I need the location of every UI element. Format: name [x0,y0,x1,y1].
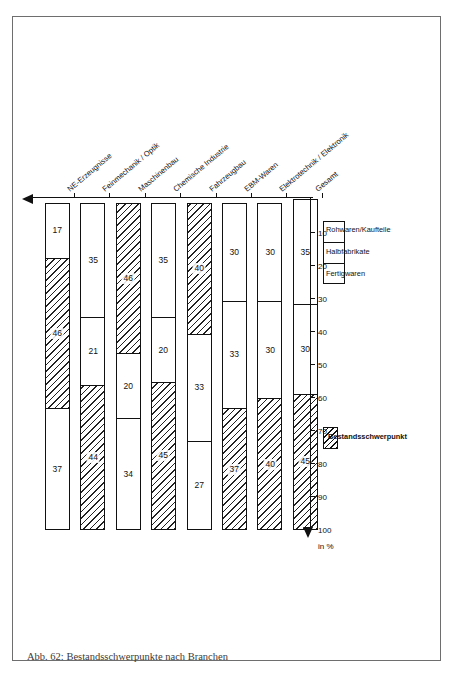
axis-tick [310,430,315,431]
bar-segment-value: 35 [299,247,310,256]
bar-segment-value: 20 [122,381,133,390]
axis-tick [310,496,315,497]
bar-segment-value: 17 [51,226,62,235]
bar-segment-value: 34 [122,469,133,478]
axis-tick [310,397,315,398]
bar-segment-value: 46 [121,273,134,284]
axis-tick-label: 60 [318,394,327,403]
axis-tick-label: 20 [318,262,327,271]
axis-tick [310,529,315,530]
bar-segment: 35 [80,202,105,318]
bar-segment: 45 [292,393,317,530]
category-tick [286,193,287,198]
bar-row: 342046 [115,200,140,530]
bar-segment: 30 [222,202,247,301]
bar-segment: 17 [45,202,70,258]
axis-tick [310,364,315,365]
bar-segment: 30 [257,202,282,301]
axis-tick-label: 100 [318,526,331,535]
axis-tick-label: 10 [318,229,327,238]
bar-segment-value: 40 [192,263,205,274]
bar-segment: 46 [45,257,70,409]
category-tick [144,193,145,198]
axis-tick-label: 30 [318,295,327,304]
axis-tick [310,463,315,464]
axis-tick-label: 40 [318,328,327,337]
bar-segment-value: 21 [87,347,98,356]
bar-segment-value: 45 [156,450,169,461]
bar-segment-value: 35 [157,256,168,265]
bar-segment: 30 [257,300,282,399]
bar-segment-value: 30 [299,344,310,353]
chart-area: Fertigwaren Halbfabrikate Rohwaren/Kauft… [27,104,427,574]
bar-segment-value: 30 [264,345,275,354]
bar-segment-value: 33 [228,350,239,359]
legend-label-rohwaren-kaufteile: Rohwaren/Kaufteile [326,225,391,234]
bar-segment: 37 [45,407,70,529]
bar-segment: 34 [115,417,140,529]
bar-segment: 30 [292,303,317,394]
bar-segment-value: 30 [264,247,275,256]
bar-segment: 33 [186,333,211,442]
category-tick [215,193,216,198]
bar-segment: 35 [292,198,317,304]
axis-tick-label: 50 [318,361,327,370]
legend-label-fertigwaren: Fertigwaren [326,269,365,278]
category-tick [109,193,110,198]
bar-segment-value: 37 [51,464,62,473]
bar-segment-value: 37 [227,463,240,474]
bar-segment: 35 [151,202,176,318]
category-label: Elektrotechnik / Elektronik [277,130,350,193]
bar-segment: 20 [151,316,176,382]
bar-segment: 20 [115,353,140,419]
rotated-figure-stage: Fertigwaren Halbfabrikate Rohwaren/Kauft… [27,104,427,574]
category-tick [321,193,322,198]
bar-segment: 40 [186,202,211,334]
bar-segment-value: 40 [263,458,276,469]
bar-segment: 33 [222,300,247,409]
bar-row: 273340 [186,200,211,530]
axis-unit-label: in % [318,542,334,551]
bar-row: 442135 [80,200,105,530]
bar-row: 452035 [151,200,176,530]
plot-bars: 3746174421353420464520352733403733304030… [45,200,303,530]
axis-tick [310,265,315,266]
bar-segment-value: 35 [87,256,98,265]
figure-caption: Abb. 62: Bestandsschwerpunkte nach Branc… [27,651,228,662]
bar-row: 373330 [222,200,247,530]
category-label: Gesamt [313,169,339,193]
category-tick [180,193,181,198]
axis-tick-label: 70 [318,427,327,436]
bar-segment-value: 27 [193,481,204,490]
bar-segment-value: 46 [50,328,63,339]
bar-segment: 46 [115,202,140,354]
category-tick [251,193,252,198]
bar-segment-value: 30 [228,247,239,256]
page-frame: Fertigwaren Halbfabrikate Rohwaren/Kauft… [12,16,441,661]
bar-segment-value: 33 [193,383,204,392]
bar-row: 403030 [257,200,282,530]
bar-segment-value: 44 [86,452,99,463]
bar-segment: 45 [151,381,176,530]
bar-segment: 21 [80,316,105,385]
axis-tick-label: 80 [318,460,327,469]
bar-segment: 37 [222,407,247,529]
bar-segment-value: 20 [157,345,168,354]
legend-label-halbfabrikate: Halbfabrikate [326,247,370,256]
axis-tick-label: 90 [318,493,327,502]
axis-tick [310,232,315,233]
bar-segment: 44 [80,384,105,529]
axis-tick [310,298,315,299]
axis-tick [310,331,315,332]
category-tick [74,193,75,198]
bar-row: 374617 [45,200,70,530]
bar-segment: 27 [186,440,211,529]
category-axis-arrow-icon [22,194,33,204]
bestandsschwerpunkt-label: Bestandsschwerpunkt [328,432,407,441]
bar-segment: 40 [257,398,282,530]
